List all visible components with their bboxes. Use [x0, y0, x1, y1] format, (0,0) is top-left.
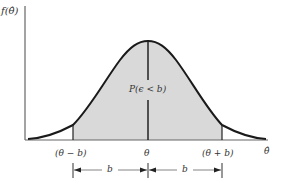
arrowhead-left-icon [74, 168, 81, 173]
tick-label-right: (θ + b) [202, 148, 233, 158]
area-label: P(ϵ < b) [127, 84, 168, 94]
y-axis-label: f(θ̂) [1, 5, 19, 16]
interval-label-right: b [182, 164, 188, 174]
arrowhead-center-right-icon [149, 168, 156, 173]
interval-label-left: b [107, 164, 113, 174]
arrowhead-right-icon [214, 168, 221, 173]
tick-label-left: (θ − b) [55, 148, 86, 158]
arrowhead-center-left-icon [140, 168, 147, 173]
tick-label-center: θ [144, 148, 149, 158]
x-axis-label: θ̂ [264, 146, 269, 156]
